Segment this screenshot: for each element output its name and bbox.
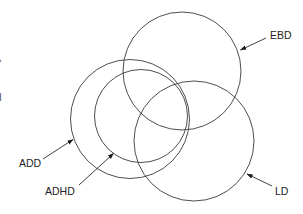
adhd-circle <box>95 70 188 163</box>
adhd-label: ADHD <box>45 185 75 197</box>
add-circle <box>71 60 190 179</box>
ld-label: LD <box>275 185 289 197</box>
add-arrow <box>43 140 73 160</box>
cutoff-text-fragment-1: , <box>0 52 2 63</box>
add-label: ADD <box>19 157 42 169</box>
ebd-circle <box>123 12 241 130</box>
ebd-arrow <box>241 38 267 50</box>
ld-circle <box>134 81 254 201</box>
adhd-arrow <box>79 154 114 186</box>
cutoff-text-fragment-2: d <box>0 92 2 103</box>
ld-arrow <box>247 174 272 186</box>
venn-diagram: , d EBD LD ADD ADHD <box>0 0 303 214</box>
ebd-label: EBD <box>270 29 292 41</box>
